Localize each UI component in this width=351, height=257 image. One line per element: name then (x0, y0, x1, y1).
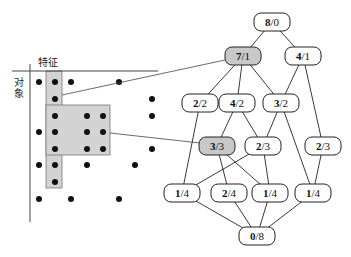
incidence-dot (84, 146, 90, 152)
node-label: 3/2 (274, 97, 288, 109)
node-label: 1/4 (263, 187, 278, 199)
node-label: 4/1 (296, 50, 310, 62)
concept-node-n23b: 2/3 (305, 137, 341, 155)
object-axis-label: 对象 (14, 76, 24, 99)
incidence-dot (132, 162, 138, 168)
concept-node-n32: 3/2 (263, 94, 299, 112)
object-label-char: 象 (14, 88, 24, 99)
incidence-dot (52, 146, 58, 152)
incidence-dot (36, 162, 42, 168)
incidence-dot (36, 79, 42, 85)
lattice-edge (182, 103, 200, 193)
lattice-edge (303, 56, 323, 146)
incidence-dot (84, 129, 90, 135)
concept-node-n23a: 2/3 (245, 137, 281, 155)
concept-node-n14c: 1/4 (295, 184, 331, 202)
node-label: 2/3 (256, 140, 271, 152)
node-label: 1/4 (306, 187, 321, 199)
incidence-dot (149, 96, 155, 102)
concept-node-n24: 2/4 (211, 184, 247, 202)
concept-node-n22: 2/2 (182, 94, 218, 112)
incidence-dot (100, 129, 106, 135)
node-label: 3/3 (210, 140, 225, 152)
object-label-char: 对 (14, 76, 24, 88)
incidence-dot (52, 113, 58, 119)
incidence-dot (84, 113, 90, 119)
concept-node-n41: 4/1 (285, 47, 321, 65)
link-to-n33 (110, 133, 200, 143)
node-label: 1/4 (175, 187, 190, 199)
concept-lattice-diagram: 8/07/14/12/24/23/23/32/32/31/42/41/41/40… (0, 0, 351, 257)
concept-node-n08: 0/8 (239, 227, 275, 245)
incidence-dot (52, 179, 58, 185)
formal-context-matrix (12, 64, 158, 222)
incidence-dot (36, 129, 42, 135)
incidence-dot (149, 113, 155, 119)
node-label: 4/2 (230, 97, 244, 109)
concept-node-n71: 7/1 (225, 47, 261, 65)
incidence-dot (149, 146, 155, 152)
incidence-dot (68, 196, 74, 202)
concept-node-n14b: 1/4 (252, 184, 288, 202)
node-label: 7/1 (236, 50, 250, 62)
concept-node-n33: 3/3 (199, 137, 235, 155)
concept-node-n42: 4/2 (219, 94, 255, 112)
node-label: 0/8 (250, 230, 265, 242)
incidence-dot (52, 79, 58, 85)
link-to-n71 (62, 60, 225, 95)
feature-axis-label: 特征 (38, 57, 58, 68)
node-label: 2/2 (193, 97, 207, 109)
incidence-dot (116, 196, 122, 202)
concept-node-n14a: 1/4 (164, 184, 200, 202)
incidence-dot (52, 162, 58, 168)
incidence-dot (52, 96, 58, 102)
incidence-dot (52, 129, 58, 135)
node-label: 8/0 (265, 16, 280, 28)
incidence-dot (100, 146, 106, 152)
incidence-dot (84, 162, 90, 168)
concept-node-n80: 8/0 (254, 13, 290, 31)
node-label: 2/4 (222, 187, 237, 199)
incidence-dot (100, 113, 106, 119)
incidence-dot (68, 79, 74, 85)
node-label: 2/3 (316, 140, 331, 152)
incidence-dot (36, 196, 42, 202)
